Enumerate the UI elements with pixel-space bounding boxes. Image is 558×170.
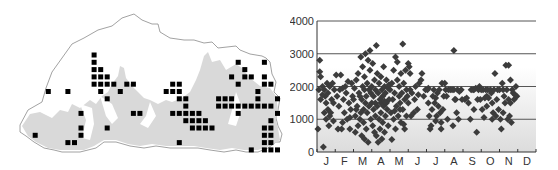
x-tick-label: J bbox=[415, 155, 421, 167]
record-square bbox=[255, 96, 260, 101]
record-square bbox=[236, 104, 241, 109]
record-square bbox=[65, 140, 70, 145]
distribution-map bbox=[0, 0, 290, 170]
record-square bbox=[131, 111, 136, 116]
record-square bbox=[183, 118, 188, 123]
y-tick-label: 4000 bbox=[290, 15, 314, 27]
record-square bbox=[262, 104, 267, 109]
record-square bbox=[46, 89, 51, 94]
record-square bbox=[242, 74, 247, 79]
record-square bbox=[177, 111, 182, 116]
record-square bbox=[223, 96, 228, 101]
y-axis-ticks: 01000200030004000 bbox=[290, 15, 314, 158]
record-square bbox=[98, 74, 103, 79]
record-square bbox=[79, 126, 84, 131]
record-square bbox=[255, 104, 260, 109]
record-square bbox=[33, 133, 38, 138]
record-square bbox=[190, 118, 195, 123]
record-square bbox=[268, 82, 273, 87]
record-square bbox=[262, 140, 267, 145]
record-square bbox=[137, 111, 142, 116]
record-square bbox=[118, 89, 123, 94]
record-square bbox=[190, 111, 195, 116]
record-square bbox=[262, 147, 267, 152]
record-square bbox=[216, 96, 221, 101]
record-square bbox=[229, 96, 234, 101]
record-square bbox=[164, 89, 169, 94]
record-square bbox=[170, 82, 175, 87]
record-square bbox=[249, 74, 254, 79]
record-square bbox=[268, 104, 273, 109]
record-square bbox=[98, 82, 103, 87]
record-square bbox=[268, 140, 273, 145]
record-square bbox=[236, 111, 241, 116]
record-square bbox=[92, 67, 97, 72]
record-square bbox=[229, 74, 234, 79]
record-square bbox=[111, 82, 116, 87]
record-square bbox=[262, 60, 267, 65]
x-tick-label: M bbox=[395, 155, 404, 167]
record-square bbox=[105, 74, 110, 79]
record-square bbox=[105, 82, 110, 87]
record-square bbox=[242, 104, 247, 109]
record-square bbox=[268, 147, 273, 152]
record-square bbox=[170, 111, 175, 116]
x-tick-label: J bbox=[433, 155, 439, 167]
record-square bbox=[190, 126, 195, 131]
record-square bbox=[223, 104, 228, 109]
record-square bbox=[249, 147, 254, 152]
record-square bbox=[92, 53, 97, 58]
record-square bbox=[255, 89, 260, 94]
record-square bbox=[249, 104, 254, 109]
scatter-chart-svg: 01000200030004000 JFMAMJJASOND bbox=[290, 0, 558, 170]
altitude-by-month-chart: 01000200030004000 JFMAMJJASOND bbox=[290, 0, 558, 170]
x-tick-label: F bbox=[341, 155, 348, 167]
record-square bbox=[268, 126, 273, 131]
record-square bbox=[177, 96, 182, 101]
record-square bbox=[79, 133, 84, 138]
record-square bbox=[196, 118, 201, 123]
distribution-map-svg bbox=[0, 0, 290, 170]
record-square bbox=[170, 89, 175, 94]
record-square bbox=[262, 74, 267, 79]
x-tick-label: A bbox=[377, 155, 385, 167]
record-square bbox=[92, 74, 97, 79]
record-square bbox=[262, 133, 267, 138]
record-square bbox=[236, 82, 241, 87]
record-square bbox=[177, 140, 182, 145]
x-tick-label: J bbox=[323, 155, 329, 167]
record-square bbox=[268, 118, 273, 123]
record-square bbox=[229, 104, 234, 109]
record-square bbox=[79, 111, 84, 116]
record-square bbox=[210, 126, 215, 131]
record-square bbox=[262, 126, 267, 131]
record-square bbox=[92, 60, 97, 65]
record-square bbox=[124, 82, 129, 87]
x-tick-label: O bbox=[486, 155, 495, 167]
x-tick-label: A bbox=[450, 155, 458, 167]
record-square bbox=[183, 96, 188, 101]
record-square bbox=[177, 82, 182, 87]
record-square bbox=[236, 60, 241, 65]
record-square bbox=[177, 89, 182, 94]
y-tick-label: 1000 bbox=[290, 113, 314, 125]
y-tick-label: 3000 bbox=[290, 48, 314, 60]
record-square bbox=[268, 133, 273, 138]
record-square bbox=[262, 82, 267, 87]
record-square bbox=[275, 111, 280, 116]
x-tick-label: N bbox=[505, 155, 513, 167]
y-tick-label: 2000 bbox=[290, 81, 314, 93]
record-square bbox=[105, 126, 110, 131]
record-square bbox=[216, 104, 221, 109]
record-square bbox=[98, 89, 103, 94]
x-tick-label: M bbox=[358, 155, 367, 167]
record-square bbox=[183, 111, 188, 116]
record-square bbox=[203, 118, 208, 123]
record-square bbox=[98, 67, 103, 72]
record-square bbox=[242, 67, 247, 72]
x-tick-label: S bbox=[468, 155, 475, 167]
y-tick-label: 0 bbox=[308, 146, 314, 158]
record-square bbox=[275, 147, 280, 152]
x-tick-label: D bbox=[523, 155, 531, 167]
record-square bbox=[203, 126, 208, 131]
